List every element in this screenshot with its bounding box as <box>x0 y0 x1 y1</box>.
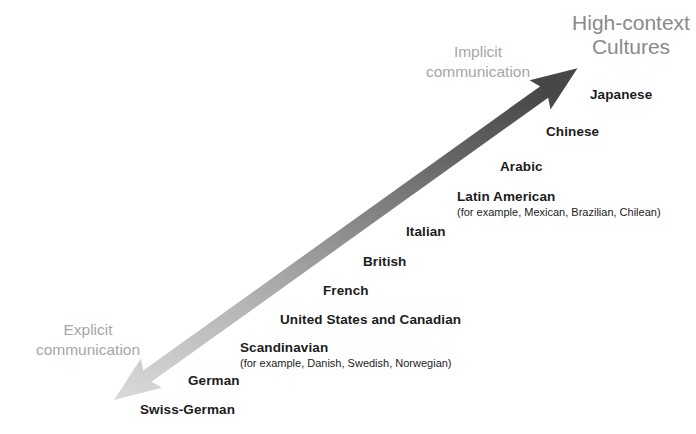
culture-name: Swiss-German <box>140 402 235 417</box>
explicit-label-line1: Explicit <box>63 321 112 338</box>
culture-name: Japanese <box>590 87 652 102</box>
explicit-communication-label: Explicit communication <box>36 320 140 360</box>
culture-label-united-states-and-canadian: United States and Canadian <box>280 312 461 327</box>
culture-name: Chinese <box>546 124 599 139</box>
culture-note: (for example, Danish, Swedish, Norwegian… <box>240 357 452 369</box>
culture-label-japanese: Japanese <box>590 87 652 102</box>
culture-label-british: British <box>363 254 406 269</box>
culture-name: Italian <box>406 224 446 239</box>
diagram-canvas: High-context Cultures Implicit communica… <box>0 0 696 434</box>
culture-name: Scandinavian <box>240 340 328 355</box>
culture-note: (for example, Mexican, Brazilian, Chilea… <box>457 206 661 218</box>
culture-name: United States and Canadian <box>280 312 461 327</box>
culture-name: British <box>363 254 406 269</box>
culture-label-arabic: Arabic <box>500 159 543 174</box>
culture-label-scandinavian: Scandinavian (for example, Danish, Swedi… <box>240 340 452 369</box>
page-title-line1: High-context <box>572 11 690 34</box>
culture-name: French <box>323 283 369 298</box>
culture-name: Latin American <box>457 189 555 204</box>
implicit-communication-label: Implicit communication <box>426 42 530 82</box>
culture-name: Arabic <box>500 159 543 174</box>
culture-label-italian: Italian <box>406 224 446 239</box>
implicit-label-line2: communication <box>426 63 530 80</box>
implicit-label-line1: Implicit <box>454 43 502 60</box>
page-title: High-context Cultures <box>572 11 690 58</box>
culture-label-latin-american: Latin American (for example, Mexican, Br… <box>457 189 661 218</box>
culture-label-french: French <box>323 283 369 298</box>
page-title-line2: Cultures <box>572 35 690 59</box>
culture-name: German <box>188 373 240 388</box>
explicit-label-line2: communication <box>36 341 140 358</box>
culture-label-chinese: Chinese <box>546 124 599 139</box>
culture-label-swiss-german: Swiss-German <box>140 402 235 417</box>
culture-label-german: German <box>188 373 240 388</box>
